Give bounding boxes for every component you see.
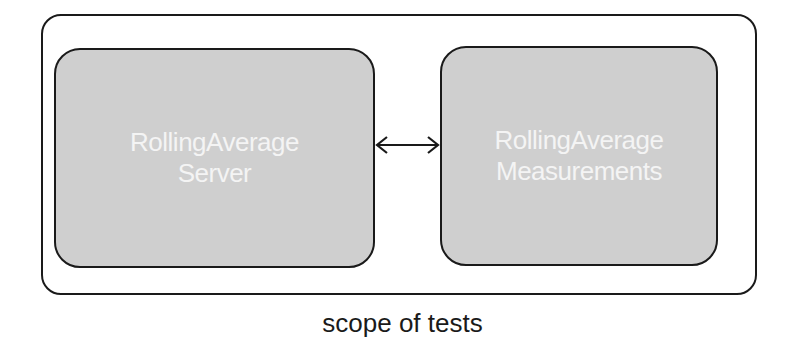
- node-label-line1: RollingAverage: [495, 125, 664, 155]
- bidirectional-arrow-icon: [374, 132, 442, 158]
- scope-caption: scope of tests: [0, 308, 799, 339]
- node-label: RollingAverageMeasurements: [495, 125, 664, 187]
- node-label: RollingAverageServer: [130, 127, 299, 189]
- node-label-line2: Measurements: [496, 156, 662, 186]
- node-label-line1: RollingAverage: [130, 127, 299, 157]
- node-label-line2: Server: [178, 158, 252, 188]
- node-rollingaverage-server: RollingAverageServer: [54, 48, 375, 268]
- node-rollingaverage-measurements: RollingAverageMeasurements: [440, 46, 718, 266]
